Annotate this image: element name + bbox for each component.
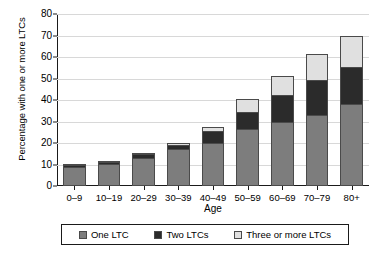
legend-swatch [79, 231, 87, 239]
legend-item[interactable]: Two LTCs [154, 230, 208, 240]
x-axis-title: Age [57, 203, 369, 214]
x-tick-mark [178, 186, 179, 190]
y-tick-label: 60 [41, 52, 52, 62]
bar-segment[interactable] [98, 164, 121, 186]
x-tick-mark [317, 186, 318, 190]
bar-group[interactable]: 50–59 [230, 14, 265, 186]
bars-layer: 0–910–1920–2930–3940–4950–5960–6970–7980… [57, 14, 369, 186]
bar-segment[interactable] [236, 99, 259, 112]
x-tick-mark [74, 186, 75, 190]
bar-group[interactable]: 40–49 [196, 14, 231, 186]
x-tick-label: 10–19 [96, 192, 122, 203]
bar-group[interactable]: 60–69 [265, 14, 300, 186]
legend-swatch [154, 231, 162, 239]
bar-group[interactable]: 70–79 [300, 14, 335, 186]
bar-group[interactable]: 0–9 [57, 14, 92, 186]
y-tick-label: 0 [46, 181, 52, 191]
x-tick-label: 0–9 [66, 192, 82, 203]
legend-label: Two LTCs [166, 230, 208, 240]
bar-segment[interactable] [202, 131, 225, 143]
y-tick-label: 50 [41, 74, 52, 84]
stacked-bar-chart: Percentage with one or more LTCs 0102030… [0, 0, 379, 258]
y-tick-label: 70 [41, 31, 52, 41]
y-tick-label: 30 [41, 117, 52, 127]
bar-segment[interactable] [202, 143, 225, 186]
legend-item[interactable]: Three or more LTCs [234, 230, 331, 240]
x-tick-mark [352, 186, 353, 190]
bar-stack[interactable] [271, 76, 294, 186]
x-tick-mark [282, 186, 283, 190]
bar-segment[interactable] [271, 95, 294, 122]
bar-stack[interactable] [340, 36, 363, 186]
x-tick-label: 60–69 [269, 192, 295, 203]
y-tick-label: 80 [41, 9, 52, 19]
bar-segment[interactable] [340, 36, 363, 67]
bar-stack[interactable] [202, 127, 225, 186]
bar-segment[interactable] [63, 167, 86, 186]
bar-segment[interactable] [236, 129, 259, 186]
bar-stack[interactable] [167, 143, 190, 186]
bar-segment[interactable] [340, 104, 363, 186]
bar-stack[interactable] [236, 99, 259, 186]
bar-segment[interactable] [271, 122, 294, 187]
y-tick-label: 20 [41, 138, 52, 148]
legend-item[interactable]: One LTC [79, 230, 129, 240]
bar-group[interactable]: 20–29 [126, 14, 161, 186]
x-tick-label: 70–79 [304, 192, 330, 203]
bar-segment[interactable] [236, 112, 259, 129]
bar-stack[interactable] [132, 153, 155, 186]
x-tick-label: 20–29 [130, 192, 156, 203]
bar-segment[interactable] [340, 67, 363, 104]
plot-area: 01020304050607080 0–910–1920–2930–3940–4… [57, 14, 369, 186]
x-tick-label: 30–39 [165, 192, 191, 203]
bar-segment[interactable] [132, 158, 155, 186]
legend-label: Three or more LTCs [246, 230, 331, 240]
x-tick-mark [213, 186, 214, 190]
x-tick-mark [109, 186, 110, 190]
bar-segment[interactable] [167, 149, 190, 186]
legend-label: One LTC [91, 230, 129, 240]
bar-group[interactable]: 30–39 [161, 14, 196, 186]
y-tick-label: 40 [41, 95, 52, 105]
bar-group[interactable]: 80+ [334, 14, 369, 186]
bar-stack[interactable] [306, 54, 329, 186]
y-tick-label: 10 [41, 160, 52, 170]
bar-segment[interactable] [306, 115, 329, 186]
bar-segment[interactable] [306, 80, 329, 115]
x-tick-label: 80+ [344, 192, 360, 203]
chart-legend: One LTCTwo LTCsThree or more LTCs [61, 224, 349, 245]
bar-segment[interactable] [271, 76, 294, 94]
y-axis-title: Percentage with one or more LTCs [17, 0, 27, 184]
bar-group[interactable]: 10–19 [92, 14, 127, 186]
bar-segment[interactable] [306, 54, 329, 80]
legend-swatch [234, 231, 242, 239]
x-tick-mark [144, 186, 145, 190]
x-tick-label: 40–49 [200, 192, 226, 203]
x-tick-mark [248, 186, 249, 190]
bar-stack[interactable] [98, 161, 121, 186]
bar-stack[interactable] [63, 164, 86, 186]
x-tick-label: 50–59 [234, 192, 260, 203]
